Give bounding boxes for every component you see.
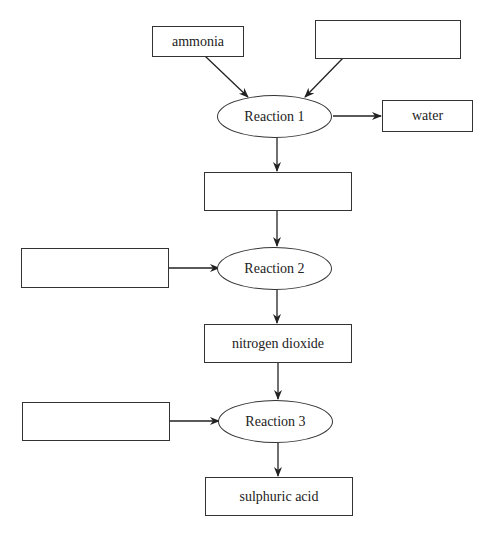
reaction-1-label: Reaction 1 [244, 109, 304, 125]
reaction-2-label: Reaction 2 [244, 261, 304, 277]
water-label: water [412, 108, 443, 124]
nitrogen-dioxide-box: nitrogen dioxide [204, 324, 352, 363]
blank-reactant-2-box[interactable] [21, 248, 169, 288]
ammonia-label: ammonia [172, 34, 224, 50]
reaction-1-node: Reaction 1 [217, 95, 332, 138]
blank-reactant-1-box[interactable] [315, 20, 461, 59]
water-box: water [382, 100, 473, 132]
sulphuric-acid-box: sulphuric acid [205, 477, 353, 516]
blank-product-1-box[interactable] [204, 172, 352, 211]
arrow-reactant-1-to-reaction-1 [305, 58, 343, 97]
reaction-3-node: Reaction 3 [218, 400, 333, 443]
arrow-ammonia-to-reaction-1 [205, 56, 248, 97]
ammonia-box: ammonia [152, 26, 244, 57]
sulphuric-acid-label: sulphuric acid [240, 489, 319, 505]
nitrogen-dioxide-label: nitrogen dioxide [232, 336, 324, 352]
reaction-3-label: Reaction 3 [245, 414, 305, 430]
reaction-2-node: Reaction 2 [217, 247, 332, 290]
blank-reactant-3-box[interactable] [22, 402, 170, 441]
